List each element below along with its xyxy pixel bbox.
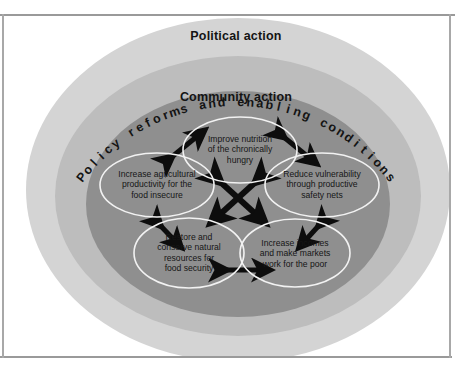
band-community-action (86, 91, 390, 317)
node-label-resources: Restore and conserve natural resources f… (135, 232, 243, 274)
node-label-nutrition: Improve nutrition of the chronically hun… (183, 134, 297, 165)
band-label-community-action: Community action (0, 90, 472, 104)
node-label-vulnerability: Reduce vulnerability through productive … (264, 169, 380, 200)
figure-container: Political action Policy reforms and enab… (0, 0, 472, 373)
node-label-agriculture: Increase agricultural productivity for t… (99, 169, 215, 200)
concentric-diagram (0, 0, 472, 373)
node-label-incomes: Increase incomes and make markets work f… (241, 238, 349, 269)
band-label-political-action: Political action (0, 29, 472, 43)
